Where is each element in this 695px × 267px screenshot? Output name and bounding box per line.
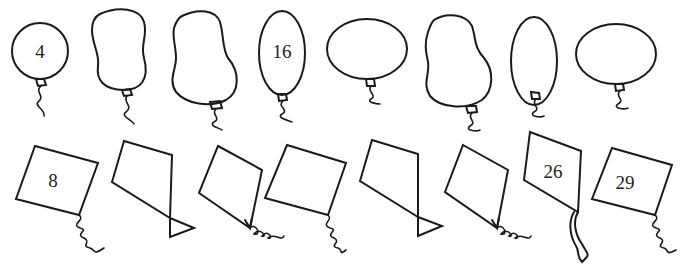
balloon-6	[426, 15, 492, 131]
number-pattern-diagram: 4 16	[0, 0, 695, 267]
kite-5	[360, 140, 442, 236]
kite-7: 26	[524, 132, 588, 262]
kite-6	[445, 145, 531, 238]
balloon-2	[92, 9, 146, 124]
balloon-1: 4	[12, 23, 68, 116]
kite-3	[199, 146, 284, 238]
balloon-4: 16	[259, 11, 305, 122]
balloon-3	[172, 11, 236, 130]
kite-8: 29	[592, 148, 676, 253]
balloon-7	[511, 17, 557, 117]
balloon-8	[576, 24, 656, 109]
balloon-5	[327, 19, 407, 104]
kite-2	[112, 141, 194, 237]
kite-7-number: 26	[544, 161, 563, 182]
kite-1: 8	[16, 146, 104, 252]
kite-1-number: 8	[48, 170, 58, 191]
balloon-4-number: 16	[273, 41, 292, 62]
balloon-1-number: 4	[35, 41, 45, 62]
kite-8-number: 29	[616, 172, 635, 193]
